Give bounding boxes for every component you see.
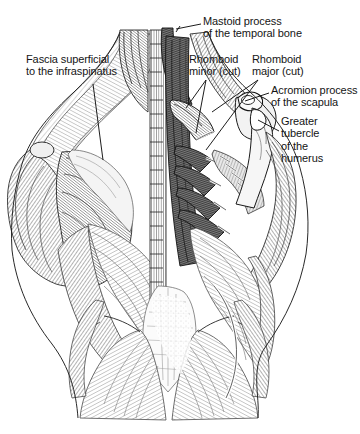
label-greater-tubercle-humerus: Greater tubercle of the humerus [281,115,323,165]
label-rhomboid-minor: Rhomboid minor (cut) [189,53,240,78]
label-rhomboid-major: Rhomboid major (cut) [252,53,303,78]
label-acromion-process: Acromion process of the scapula [271,84,357,109]
anatomy-figure: Fascia superficial to the infraspinatus … [0,0,360,434]
label-mastoid-process: Mastoid process of the temporal bone [203,15,302,40]
label-fascia-superficial-infraspinatus: Fascia superficial to the infraspinatus [26,53,117,78]
